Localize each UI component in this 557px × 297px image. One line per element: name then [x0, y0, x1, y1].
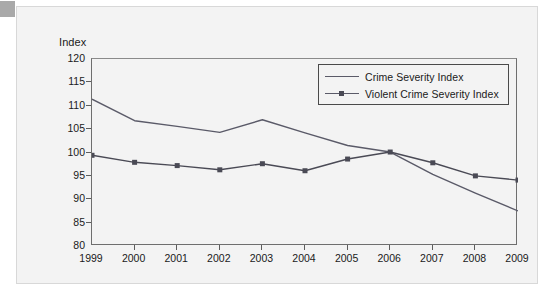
legend-label-crime-severity-index: Crime Severity Index	[365, 71, 463, 83]
y-tick-label: 110	[53, 99, 85, 111]
y-tick-label: 95	[53, 169, 85, 181]
chart-legend: Crime Severity Index Violent Crime Sever…	[318, 64, 509, 105]
series-line	[92, 99, 518, 211]
x-tick-label: 1999	[68, 252, 114, 264]
y-tick-label: 90	[53, 192, 85, 204]
y-tick-label: 120	[53, 52, 85, 64]
legend-line-swatch-marker	[325, 88, 359, 100]
x-tick-label: 2005	[324, 252, 370, 264]
x-tick-label: 2001	[153, 252, 199, 264]
y-tick-label: 115	[53, 75, 85, 87]
x-tick-label: 2007	[409, 252, 455, 264]
figure-panel: Index 80859095100105110115120 1999200020…	[16, 6, 538, 284]
x-tick-label: 2002	[196, 252, 242, 264]
x-tick-label: 2004	[281, 252, 327, 264]
series-data-point-marker	[217, 167, 222, 172]
series-line	[92, 152, 518, 180]
x-tick-label: 2003	[238, 252, 284, 264]
legend-square-marker-icon	[339, 91, 344, 96]
series-data-point-marker	[430, 160, 435, 165]
y-tick-label: 100	[53, 146, 85, 158]
corner-tab-decoration	[0, 1, 15, 17]
legend-item-crime-severity-index: Crime Severity Index	[325, 68, 502, 85]
series-data-point-marker	[516, 178, 519, 183]
legend-item-violent-crime-severity-index: Violent Crime Severity Index	[325, 85, 502, 102]
series-data-point-marker	[345, 157, 350, 162]
y-tick-label: 85	[53, 216, 85, 228]
series-data-point-marker	[303, 168, 308, 173]
x-tick-label: 2008	[451, 252, 497, 264]
series-data-point-marker	[175, 163, 180, 168]
series-data-point-marker	[92, 153, 95, 158]
chart-screenshot: Index 80859095100105110115120 1999200020…	[0, 0, 557, 297]
x-tick-label: 2009	[494, 252, 540, 264]
legend-label-violent-crime-severity-index: Violent Crime Severity Index	[365, 88, 499, 100]
legend-line-swatch-plain	[325, 71, 359, 83]
series-data-point-marker	[388, 150, 393, 155]
y-axis-title: Index	[59, 36, 86, 48]
series-data-point-marker	[473, 173, 478, 178]
y-tick-label: 105	[53, 122, 85, 134]
series-data-point-marker	[132, 160, 137, 165]
x-tick-label: 2006	[366, 252, 412, 264]
series-data-point-marker	[260, 161, 265, 166]
x-tick-label: 2000	[111, 252, 157, 264]
y-tick-label: 80	[53, 239, 85, 251]
